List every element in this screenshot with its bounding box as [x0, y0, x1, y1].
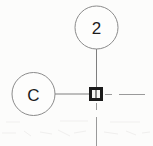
drawing-svg: 2 C [0, 0, 153, 146]
balloon-label-2: 2 [92, 19, 101, 38]
balloon-label-c: C [27, 86, 39, 105]
technical-drawing-canvas: 2 C [0, 0, 153, 146]
balloon-callout-2[interactable]: 2 [75, 6, 118, 49]
balloon-callout-c[interactable]: C [12, 73, 55, 116]
scan-artifact-band [2, 121, 150, 136]
square-node-marker[interactable] [89, 87, 103, 101]
